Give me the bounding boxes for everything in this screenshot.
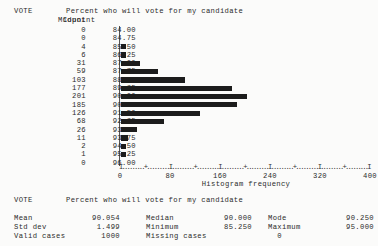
cell-count: 103 — [18, 76, 86, 84]
histogram-row: 5987.75 — [0, 67, 373, 75]
statistic-label: Valid cases — [14, 232, 65, 240]
histogram-bar — [121, 61, 140, 66]
cell-count: 6 — [18, 51, 86, 59]
histogram-bar — [121, 119, 164, 124]
statistic-label: Median — [146, 214, 174, 222]
histogram-bar — [121, 77, 185, 82]
statistic-label: Maximum — [268, 223, 301, 231]
histogram-row: 686.25 — [0, 51, 373, 59]
cell-count: 68 — [18, 117, 86, 125]
cell-count: 126 — [18, 109, 86, 117]
cell-count: 1 — [18, 150, 86, 158]
statistics-row: Mean90.054Median90.000Mode90.250 — [14, 214, 364, 223]
histogram-row: 3187.00 — [0, 59, 373, 67]
cell-midpoint: 84.75 — [92, 34, 136, 42]
statistics-title: VOTEPercent who will vote for my candida… — [14, 196, 243, 204]
statistic-label: Std dev — [14, 223, 47, 231]
axis-tick-label: 160 — [213, 172, 227, 180]
histogram-row: 294.50 — [0, 142, 373, 150]
statistics-variable-name: VOTE — [14, 196, 66, 204]
statistic-value: 90.054 — [76, 214, 120, 222]
histogram-rows: 084.00084.75485.50686.253187.005987.7510… — [0, 26, 373, 158]
statistic-label: Mean — [14, 214, 33, 222]
axis-title: Histogram frequency — [119, 180, 373, 188]
histogram-row: 12691.50 — [0, 109, 373, 117]
histogram-bar — [121, 44, 126, 49]
cell-count: 185 — [18, 101, 86, 109]
cell-midpoint: 95.25 — [92, 150, 136, 158]
statistic-value: 85.250 — [208, 223, 252, 231]
variable-label: Percent who will vote for my candidate — [66, 7, 243, 15]
statistics-table: Mean90.054Median90.000Mode90.250Std dev1… — [14, 214, 364, 242]
histogram-bar — [121, 52, 126, 57]
axis-tick-label: 240 — [263, 172, 277, 180]
histogram-bar — [121, 135, 128, 140]
cell-count: 2 — [18, 142, 86, 150]
histogram-row: 1193.75 — [0, 134, 373, 142]
statistic-label: Mode — [268, 214, 287, 222]
histogram-row: 20190.00 — [0, 92, 373, 100]
statistics-row: Valid cases1000Missing cases0 — [14, 232, 364, 241]
statistic-label: Minimum — [146, 223, 179, 231]
statistics-row: Std dev1.499Minimum85.250Maximum95.000 — [14, 223, 364, 232]
histogram-row: 2693.00 — [0, 126, 373, 134]
cell-count: 0 — [18, 26, 86, 34]
statistic-value: 90.000 — [208, 214, 252, 222]
statistics-variable-label: Percent who will vote for my candidate — [66, 196, 243, 204]
column-header-midpoint: Midpoint — [58, 16, 95, 24]
histogram-row: 10388.50 — [0, 76, 373, 84]
histogram-bar — [121, 127, 137, 132]
histogram-bar — [121, 111, 200, 116]
histogram-row: 485.50 — [0, 43, 373, 51]
cell-count: 26 — [18, 126, 86, 134]
cell-midpoint: 93.75 — [92, 134, 136, 142]
cell-count: 59 — [18, 67, 86, 75]
histogram-row: 17789.25 — [0, 84, 373, 92]
cell-midpoint: 86.25 — [92, 51, 136, 59]
histogram-title: VOTEPercent who will vote for my candida… — [14, 7, 243, 15]
axis-tick-label: 0 — [118, 172, 123, 180]
statistic-value: 95.000 — [330, 223, 374, 231]
statistic-value: 0 — [238, 232, 282, 240]
statistic-value: 90.250 — [330, 214, 374, 222]
cell-count: 177 — [18, 84, 86, 92]
cell-count: 201 — [18, 92, 86, 100]
cell-midpoint: 84.00 — [92, 26, 136, 34]
statistic-value: 1.499 — [76, 223, 120, 231]
cell-midpoint: 85.50 — [92, 43, 136, 51]
statistic-label: Missing cases — [146, 232, 207, 240]
cell-count: 11 — [18, 134, 86, 142]
variable-name: VOTE — [14, 7, 66, 15]
histogram-row: 084.75 — [0, 34, 373, 42]
histogram-row: 084.00 — [0, 26, 373, 34]
horizontal-axis-ruler: I.........+.........I.........+.........… — [119, 164, 370, 171]
cell-count: 0 — [18, 34, 86, 42]
cell-count: 31 — [18, 59, 86, 67]
histogram-bar — [121, 144, 126, 149]
histogram-row: 18590.75 — [0, 101, 373, 109]
axis-tick-label: 320 — [313, 172, 327, 180]
histogram-row: 195.25 — [0, 150, 373, 158]
cell-count: 0 — [18, 159, 86, 167]
histogram-bar — [121, 94, 247, 99]
cell-midpoint: 94.50 — [92, 142, 136, 150]
cell-count: 4 — [18, 43, 86, 51]
histogram-bar — [121, 152, 126, 157]
statistic-value: 1000 — [76, 232, 120, 240]
histogram-bar — [121, 86, 232, 91]
axis-tick-label: 80 — [165, 172, 174, 180]
histogram-bar — [121, 69, 158, 74]
histogram-bar — [121, 102, 237, 107]
axis-tick-label: 400 — [363, 172, 377, 180]
histogram-row: 6892.25 — [0, 117, 373, 125]
